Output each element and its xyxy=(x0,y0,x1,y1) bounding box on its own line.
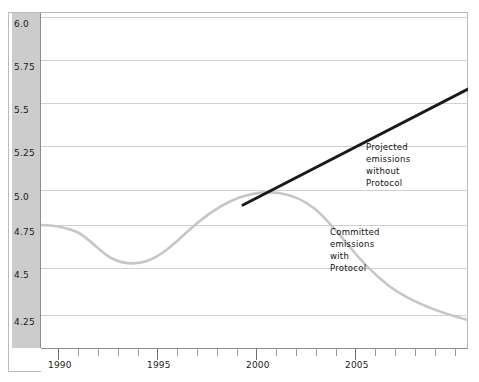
x-tick-2009 xyxy=(435,349,436,356)
x-tick-2007 xyxy=(395,349,396,356)
y-tick-label-4-75: 4.75 xyxy=(14,227,35,237)
x-tick-2000 xyxy=(256,349,257,360)
x-tick-1990 xyxy=(58,349,59,360)
x-tick-2001 xyxy=(276,349,277,356)
x-tick-2008 xyxy=(415,349,416,356)
x-tick-2010 xyxy=(455,349,456,356)
x-tick-label-1990: 1990 xyxy=(48,360,72,370)
x-tick-2004 xyxy=(336,349,337,356)
x-tick-1999 xyxy=(237,349,238,356)
series-line-projected-emissions xyxy=(243,89,468,205)
x-tick-1995 xyxy=(157,349,158,360)
x-tick-1992 xyxy=(98,349,99,356)
y-tick-label-5-0: 5.0 xyxy=(14,192,29,202)
x-tick-label-2005: 2005 xyxy=(345,360,369,370)
x-tick-label-1995: 1995 xyxy=(147,360,171,370)
x-tick-2006 xyxy=(375,349,376,356)
x-tick-2005 xyxy=(355,349,356,360)
x-tick-1996 xyxy=(177,349,178,356)
annotation-committed-emissions: Committed emissions with Protocol xyxy=(330,226,380,274)
x-tick-2003 xyxy=(316,349,317,356)
y-tick-label-4-5: 4.5 xyxy=(14,270,29,280)
y-tick-label-5-25: 5.25 xyxy=(14,148,35,158)
y-tick-label-6-0: 6.0 xyxy=(14,19,29,29)
annotation-projected-emissions: Projected emissions without Protocol xyxy=(366,141,410,189)
y-tick-label-5-5: 5.5 xyxy=(14,105,29,115)
y-tick-label-5-75: 5.75 xyxy=(14,62,35,72)
series-line-committed-emissions xyxy=(41,192,468,320)
x-tick-1994 xyxy=(138,349,139,356)
x-tick-1991 xyxy=(78,349,79,356)
x-tick-1993 xyxy=(118,349,119,356)
x-tick-1997 xyxy=(197,349,198,356)
x-tick-2002 xyxy=(296,349,297,356)
y-tick-label-4-25: 4.25 xyxy=(14,317,35,327)
x-tick-1998 xyxy=(217,349,218,356)
x-tick-label-2000: 2000 xyxy=(246,360,270,370)
